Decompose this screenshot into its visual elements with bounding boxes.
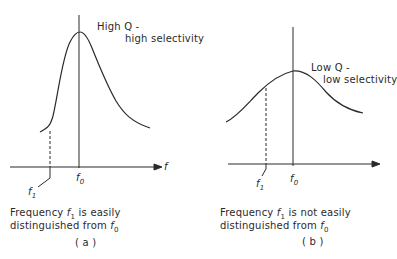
panel-a-caption-line2: distinguished from f0 [10,220,119,233]
panel-b-f1-label: f1 [256,178,264,191]
panel-b-annotation-line1: Low Q - [311,62,350,74]
panel-a-high-q-curve [40,32,150,132]
panel-b-label: ( b ) [302,236,324,248]
panel-a-caption-line1: Frequency f1 is easily [10,207,121,220]
panel-b-f0-label: f0 [290,173,298,186]
panel-a-annotation-line1: High Q - [97,21,139,33]
panel-a-f1-leader [38,167,50,187]
panel-a-arrowhead-icon [154,164,162,170]
panel-b-caption-line2: distinguished from f0 [220,220,329,233]
panel-a-f1-label: f1 [28,186,36,199]
panel-b-graphics [226,27,380,176]
panel-a-axis-label: f [164,161,168,173]
panel-b-caption-line1: Frequency f1 is not easily [220,207,351,220]
panel-a-label: ( a ) [75,237,96,249]
panel-b-f1-leader [262,164,266,176]
panel-b-annotation-line2: low selectivity [323,74,397,86]
panel-a-annotation-line2: high selectivity [125,33,204,45]
panel-b-arrowhead-icon [372,161,380,167]
panel-a-f0-label: f0 [76,172,84,185]
